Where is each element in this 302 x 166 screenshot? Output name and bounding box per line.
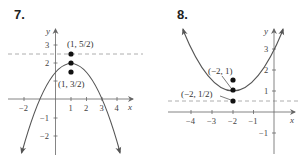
y-tick-label: 1 [264, 86, 268, 96]
x-tick-label: 1 [69, 103, 73, 113]
x-tick-label: −1 [249, 116, 258, 126]
x-tick-label: 2 [84, 103, 88, 113]
x-axis-label: x [289, 115, 294, 125]
point-label-top: (−2, 1) [208, 66, 233, 76]
point-vertex [68, 60, 73, 65]
point-label-bottom: (−2, 1/2) [181, 89, 213, 99]
leader-line [222, 76, 231, 88]
figure-7: 7. −2 1 2 3 4 x 3 2 −1 −2 [8, 7, 143, 155]
leader-line [220, 96, 231, 100]
x-axis-label: x [127, 102, 132, 112]
curve-arrow-right [119, 148, 121, 153]
y-tick-label: −2 [40, 131, 49, 141]
y-tick-label: −1 [40, 113, 49, 123]
x-tick-label: −2 [228, 116, 237, 126]
point-vertex [230, 87, 235, 92]
x-tick-label: −4 [186, 116, 196, 126]
x-tick-label: −3 [207, 116, 216, 126]
point-label-top: (1, 5/2) [67, 39, 94, 49]
point-below [68, 69, 73, 74]
point-label-bottom: (1, 3/2) [58, 79, 85, 89]
curve-arrow-right [282, 29, 284, 34]
figure-number: 7. [14, 7, 25, 22]
y-axis-label: y [263, 26, 268, 36]
point-focus [230, 77, 235, 82]
y-tick-label: 2 [45, 58, 49, 68]
x-tick-label: 4 [115, 103, 120, 113]
figure-canvas: 7. −2 1 2 3 4 x 3 2 −1 −2 [0, 0, 302, 166]
curve-arrow-left [183, 29, 185, 34]
point-below [230, 98, 235, 103]
figure-8: 8. −4 −3 −2 −1 x 3 2 1 −1 y [168, 7, 300, 154]
x-tick-label: 3 [100, 103, 104, 113]
curve-arrow-left [22, 148, 24, 153]
y-tick-label: 3 [264, 44, 268, 54]
y-tick-label: −1 [259, 128, 268, 138]
point-focus [68, 51, 73, 56]
x-tick-label: −2 [19, 103, 28, 113]
y-tick-label: 3 [45, 40, 49, 50]
y-axis-label: y [45, 26, 50, 36]
figure-number: 8. [177, 7, 188, 22]
